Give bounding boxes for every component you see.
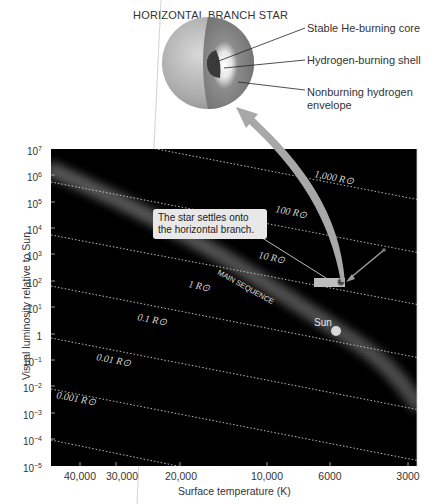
x-axis-label: Surface temperature (K) — [178, 485, 291, 497]
y-axis-label: Visual luminosity relative to Sun — [20, 231, 32, 381]
xtick-10000: 10,000 — [251, 470, 283, 482]
xtick-20000: 20,000 — [165, 470, 197, 482]
xtick-40000: 40,000 — [64, 470, 96, 482]
ytick-1e5: 105 — [8, 197, 42, 210]
ytick-1e-5: 10−5 — [8, 461, 42, 474]
xtick-30000: 30,000 — [106, 470, 138, 482]
ytick-1e-3: 10−3 — [8, 408, 42, 421]
sun-label: Sun — [314, 317, 332, 328]
ytick-1e-2: 10−2 — [8, 381, 42, 394]
sun-marker — [331, 326, 341, 336]
ytick-1e-4: 10−4 — [8, 434, 42, 447]
hr-diagram-plot: 1,000 R⊙ 100 R⊙ 10 R⊙ 1 R⊙ 0.1 R⊙ 0.01 R… — [0, 0, 429, 504]
xtick-3000: 3000 — [396, 470, 419, 482]
ytick-1e6: 106 — [8, 170, 42, 183]
callout-horizontal-branch: The star settles onto the horizontal bra… — [153, 209, 267, 239]
ytick-1e7: 107 — [8, 144, 42, 157]
xtick-6000: 6000 — [318, 470, 341, 482]
